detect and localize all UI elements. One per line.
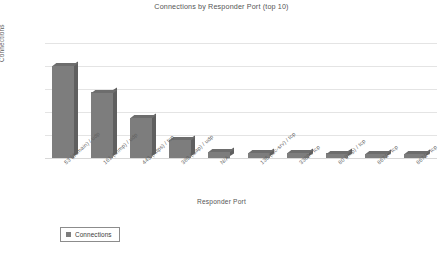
x-axis-tick-label: 8671 / tcp [376, 161, 380, 165]
x-axis-tick-label: 80 (http) / tcp [337, 161, 341, 165]
legend-label: Connections [75, 231, 112, 238]
x-axis-tick-label: 161 (snmp) / udp [102, 161, 106, 165]
bar-top-face [130, 115, 156, 118]
x-axis-tick-labels: 53 (domain) / udp161 (snmp) / udp443 (ht… [45, 159, 437, 197]
x-axis-tick-label: 53 (domain) / udp [63, 161, 67, 165]
bar-top-face [91, 90, 117, 93]
x-axis-tick-label: 8671 / tcp [415, 161, 419, 165]
x-axis-title: Responder Port [0, 198, 443, 205]
x-axis-tick-label: 135 (loc-srv) / tcp [259, 161, 263, 165]
y-axis-title: Connections [0, 24, 5, 62]
x-axis-tick-label: 389 (ldap) / udp [180, 161, 184, 165]
bar-chart: Connections by Responder Port (top 10) C… [0, 0, 443, 257]
bar-front-face [52, 66, 74, 158]
bars-layer [45, 43, 437, 158]
bar[interactable] [52, 66, 74, 158]
legend-swatch-icon [66, 232, 71, 237]
bar-front-face [91, 92, 113, 158]
bar[interactable] [91, 92, 113, 158]
chart-legend[interactable]: Connections [60, 227, 120, 242]
x-axis-tick-label: 3389 / tcp [298, 161, 302, 165]
x-axis-tick-label: 443 (https) / tcp [141, 161, 145, 165]
bar-side-face [74, 61, 78, 156]
bar-top-face [52, 63, 78, 66]
chart-title: Connections by Responder Port (top 10) [0, 2, 443, 11]
x-axis-tick-label: N/A [219, 161, 223, 165]
bar-side-face [113, 88, 117, 156]
